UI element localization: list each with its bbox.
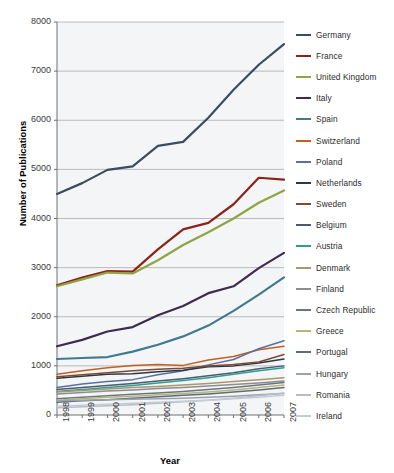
legend-item-label: Italy	[316, 93, 332, 103]
x-tick-label: 1999	[86, 402, 96, 422]
legend-item-germany[interactable]: Germany	[296, 24, 394, 45]
legend-line-swatch-icon	[296, 76, 311, 78]
legend-item-label: Ireland	[316, 411, 342, 421]
legend-item-switzerland[interactable]: Switzerland	[296, 130, 394, 151]
legend-item-hungary[interactable]: Hungary	[296, 363, 394, 384]
legend-line-swatch-icon	[296, 245, 311, 247]
legend-item-label: Austria	[316, 241, 343, 251]
legend-item-label: Greece	[316, 326, 344, 336]
legend-item-label: Portugal	[316, 347, 348, 357]
legend-item-sweden[interactable]: Sweden	[296, 194, 394, 215]
legend-item-portugal[interactable]: Portugal	[296, 342, 394, 363]
x-tick-label: 2006	[263, 402, 273, 422]
x-tick-label: 1998	[61, 402, 71, 422]
legend-line-swatch-icon	[296, 415, 311, 417]
legend-item-belgium[interactable]: Belgium	[296, 215, 394, 236]
legend-item-label: United Kingdom	[316, 72, 376, 82]
legend-line-swatch-icon	[296, 309, 311, 311]
legend-item-finland[interactable]: Finland	[296, 278, 394, 299]
legend-item-label: Hungary	[316, 369, 348, 379]
y-tick-label: 8000	[5, 16, 51, 26]
legend-line-swatch-icon	[296, 224, 311, 226]
legend-item-greece[interactable]: Greece	[296, 321, 394, 342]
legend-item-ireland[interactable]: Ireland	[296, 405, 394, 426]
legend-item-romania[interactable]: Romania	[296, 384, 394, 405]
x-tick-label: 2004	[212, 402, 222, 422]
legend-item-label: Switzerland	[316, 136, 360, 146]
legend-item-label: Poland	[316, 157, 342, 167]
y-tick-label: 5000	[5, 163, 51, 173]
legend-item-label: Czech Republic	[316, 305, 376, 315]
legend-item-label: Finland	[316, 284, 344, 294]
legend-line-swatch-icon	[296, 330, 311, 332]
legend-line-swatch-icon	[296, 203, 311, 205]
x-tick-label: 2003	[187, 402, 197, 422]
legend-item-label: Romania	[316, 390, 350, 400]
y-tick-label: 4000	[5, 213, 51, 223]
legend-line-swatch-icon	[296, 97, 311, 99]
legend-line-swatch-icon	[296, 161, 311, 163]
x-tick-label: 2000	[111, 402, 121, 422]
y-tick-label: 3000	[5, 262, 51, 272]
legend-line-swatch-icon	[296, 118, 311, 120]
legend-item-label: Denmark	[316, 263, 350, 273]
legend-item-netherlands[interactable]: Netherlands	[296, 172, 394, 193]
publications-line-chart-figure: Number of Publications Year 800070006000…	[0, 0, 394, 473]
legend-item-label: Belgium	[316, 220, 347, 230]
legend-line-swatch-icon	[296, 288, 311, 290]
legend-item-italy[interactable]: Italy	[296, 88, 394, 109]
legend-item-label: Netherlands	[316, 178, 362, 188]
legend-line-swatch-icon	[296, 55, 311, 57]
y-tick-label: 2000	[5, 311, 51, 321]
legend-item-label: Spain	[316, 114, 338, 124]
y-tick-label: 1000	[5, 360, 51, 370]
legend-line-swatch-icon	[296, 394, 311, 396]
legend-line-swatch-icon	[296, 34, 311, 36]
chart-legend: GermanyFranceUnited KingdomItalySpainSwi…	[296, 24, 394, 427]
legend-line-swatch-icon	[296, 182, 311, 184]
y-tick-label: 7000	[5, 65, 51, 75]
y-tick-label: 6000	[5, 114, 51, 124]
legend-line-swatch-icon	[296, 373, 311, 375]
legend-item-spain[interactable]: Spain	[296, 109, 394, 130]
x-tick-label: 2001	[137, 402, 147, 422]
legend-line-swatch-icon	[296, 140, 311, 142]
legend-item-denmark[interactable]: Denmark	[296, 257, 394, 278]
legend-item-czech-republic[interactable]: Czech Republic	[296, 299, 394, 320]
x-tick-label: 2002	[162, 402, 172, 422]
legend-item-austria[interactable]: Austria	[296, 236, 394, 257]
legend-item-label: Sweden	[316, 199, 347, 209]
legend-item-united-kingdom[interactable]: United Kingdom	[296, 66, 394, 87]
legend-item-label: France	[316, 51, 342, 61]
legend-line-swatch-icon	[296, 267, 311, 269]
legend-item-france[interactable]: France	[296, 45, 394, 66]
legend-item-poland[interactable]: Poland	[296, 151, 394, 172]
x-axis-title: Year	[57, 455, 283, 466]
x-tick-label: 2005	[238, 402, 248, 422]
legend-line-swatch-icon	[296, 351, 311, 353]
legend-item-label: Germany	[316, 30, 351, 40]
y-tick-label: 0	[5, 409, 51, 419]
